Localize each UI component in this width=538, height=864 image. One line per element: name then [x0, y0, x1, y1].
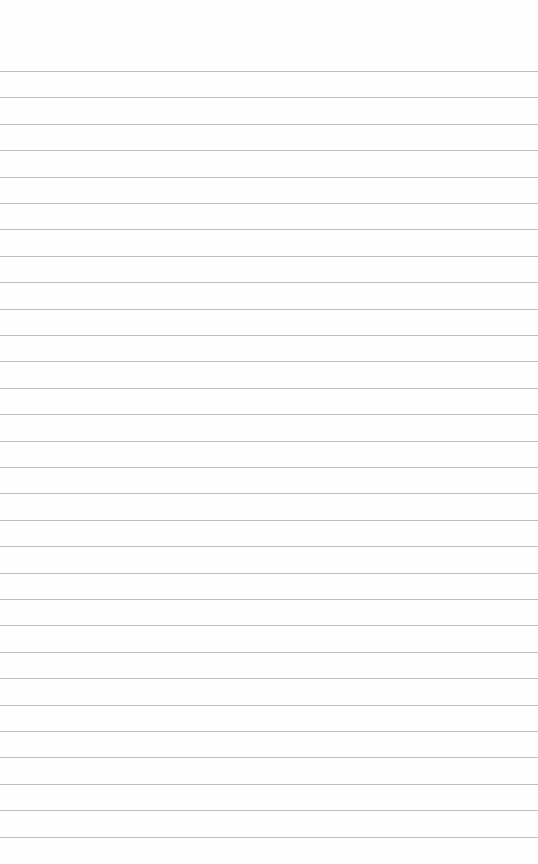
ruled-line — [0, 71, 538, 72]
ruled-line — [0, 625, 538, 626]
ruled-line — [0, 282, 538, 283]
ruled-line — [0, 837, 538, 838]
ruled-line — [0, 757, 538, 758]
ruled-line — [0, 520, 538, 521]
ruled-line — [0, 361, 538, 362]
ruled-line — [0, 441, 538, 442]
ruled-line — [0, 731, 538, 732]
ruled-line — [0, 573, 538, 574]
ruled-line — [0, 150, 538, 151]
lined-paper — [0, 0, 538, 864]
ruled-line — [0, 177, 538, 178]
ruled-line — [0, 546, 538, 547]
ruled-line — [0, 124, 538, 125]
ruled-line — [0, 678, 538, 679]
ruled-line — [0, 414, 538, 415]
ruled-line — [0, 467, 538, 468]
ruled-line — [0, 229, 538, 230]
ruled-line — [0, 652, 538, 653]
ruled-line — [0, 599, 538, 600]
ruled-line — [0, 203, 538, 204]
ruled-line — [0, 388, 538, 389]
ruled-line — [0, 335, 538, 336]
ruled-line — [0, 784, 538, 785]
ruled-line — [0, 810, 538, 811]
ruled-line — [0, 705, 538, 706]
ruled-line — [0, 256, 538, 257]
ruled-line — [0, 97, 538, 98]
ruled-line — [0, 309, 538, 310]
ruled-line — [0, 493, 538, 494]
